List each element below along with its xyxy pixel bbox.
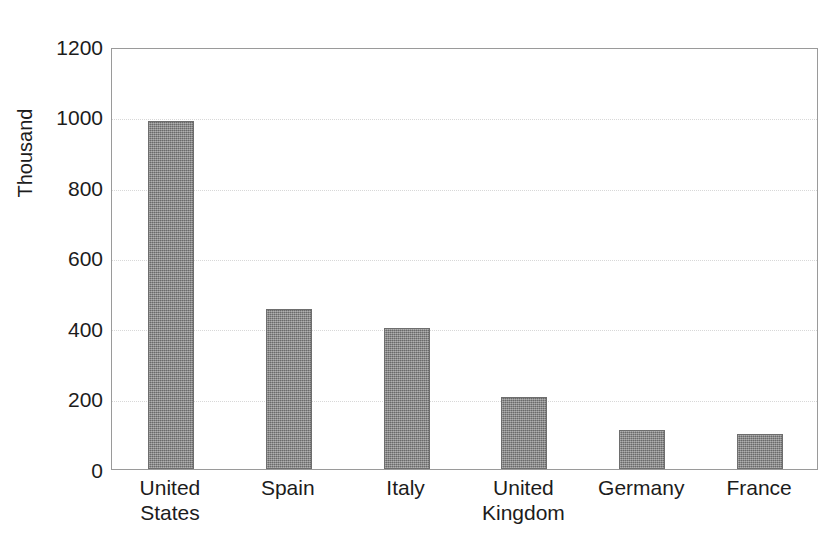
y-tick-label-800: 800: [7, 178, 103, 199]
plot-area: [111, 48, 818, 470]
x-tick-line1: Spain: [261, 476, 315, 499]
x-tick-label-spain: Spain: [229, 475, 347, 500]
bar-germany[interactable]: [619, 430, 665, 469]
x-tick-label-united-kingdom: United Kingdom: [465, 475, 583, 525]
x-tick-label-united-states: United States: [111, 475, 229, 525]
y-tick-label-0: 0: [7, 460, 103, 481]
x-tick-line1: Germany: [598, 476, 684, 499]
y-tick-label-400: 400: [7, 319, 103, 340]
bar-chart-figure: Thousand 1200 1000 800 600 400 200 0 Uni…: [0, 0, 837, 555]
x-tick-label-italy: Italy: [347, 475, 465, 500]
x-tick-label-france: France: [700, 475, 818, 500]
bars-layer: [112, 49, 817, 469]
x-axis-tick-labels: United States Spain Italy United Kingdom…: [111, 475, 818, 545]
x-tick-line1: Italy: [386, 476, 425, 499]
x-tick-line2: States: [111, 500, 229, 525]
x-tick-line1: France: [726, 476, 791, 499]
x-tick-line2: Kingdom: [465, 500, 583, 525]
y-tick-label-1200: 1200: [7, 37, 103, 58]
x-tick-label-germany: Germany: [582, 475, 700, 500]
bar-italy[interactable]: [384, 328, 430, 469]
y-tick-label-600: 600: [7, 248, 103, 269]
y-tick-label-200: 200: [7, 389, 103, 410]
bar-spain[interactable]: [266, 309, 312, 469]
bar-united-states[interactable]: [148, 121, 194, 469]
y-axis-tick-labels: 1200 1000 800 600 400 200 0: [0, 0, 103, 555]
x-tick-line1: United: [140, 476, 201, 499]
bar-united-kingdom[interactable]: [501, 397, 547, 469]
bar-france[interactable]: [737, 434, 783, 469]
y-tick-label-1000: 1000: [7, 107, 103, 128]
x-tick-line1: United: [493, 476, 554, 499]
